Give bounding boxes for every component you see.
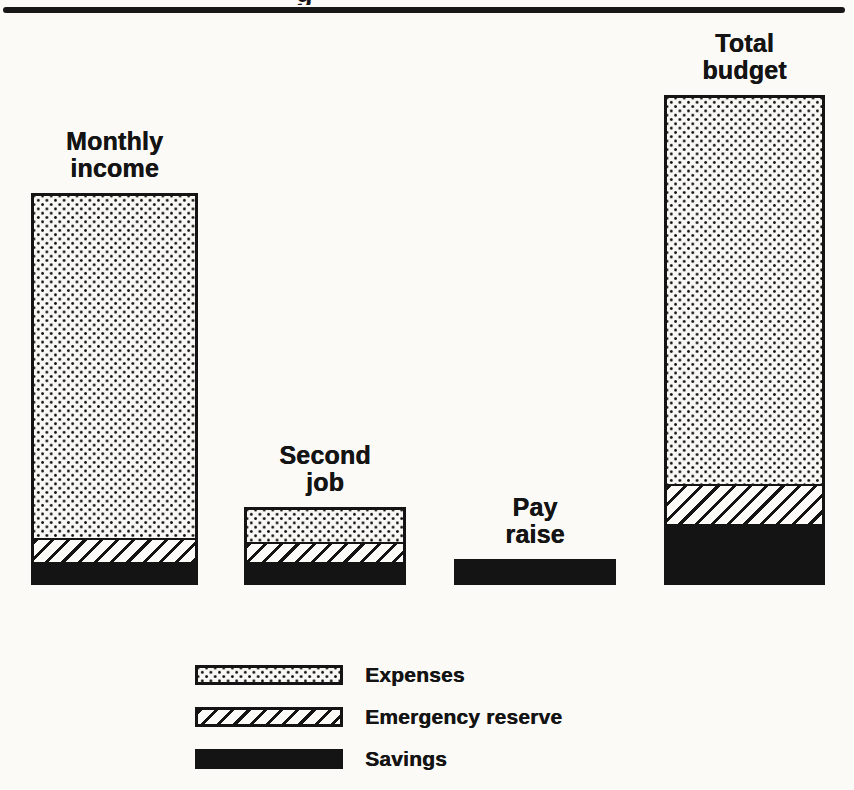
- bar-segment-total-budget-emergency-reserve: [667, 486, 822, 524]
- bar-label-pay-raise: Payraise: [505, 494, 564, 548]
- bar-segment-monthly-income-emergency-reserve: [34, 540, 195, 562]
- bar-label-total-budget: Totalbudget: [702, 30, 787, 84]
- bar-label-line: budget: [702, 57, 787, 84]
- legend-swatch-expenses-dots: [195, 665, 343, 685]
- bar-stack-total-budget: [664, 95, 825, 585]
- scanned-chart-page: g MonthlyincomeSecondjobPayraiseTotalbud…: [0, 0, 854, 790]
- bar-label-line: job: [279, 469, 371, 496]
- legend-item-savings: Savings: [195, 747, 562, 771]
- legend: Expenses Emergency reserve Savings: [195, 663, 562, 771]
- legend-item-expenses: Expenses: [195, 663, 562, 687]
- bar-segment-monthly-income-savings: [34, 562, 195, 582]
- bar-stack-monthly-income: [31, 193, 198, 585]
- bar-label-line: Total: [702, 30, 787, 57]
- bar-group-pay-raise: Payraise: [457, 494, 613, 585]
- legend-label-savings: Savings: [365, 747, 447, 771]
- bar-stack-second-job: [244, 507, 406, 585]
- bar-label-line: Pay: [505, 494, 564, 521]
- legend-swatch-savings-solid: [195, 749, 343, 769]
- bar-label-line: raise: [505, 521, 564, 548]
- bar-segment-pay-raise-savings: [457, 562, 613, 582]
- bar-label-second-job: Secondjob: [279, 442, 371, 496]
- bar-segment-total-budget-expenses: [667, 98, 822, 486]
- bar-segment-second-job-savings: [247, 562, 403, 582]
- bar-segment-second-job-expenses: [247, 510, 403, 544]
- bar-segment-total-budget-savings: [667, 524, 822, 582]
- bar-label-line: Second: [279, 442, 371, 469]
- bar-label-monthly-income: Monthlyincome: [66, 128, 163, 182]
- bar-segment-monthly-income-expenses: [34, 196, 195, 540]
- bar-group-monthly-income: Monthlyincome: [34, 128, 195, 585]
- bar-group-second-job: Secondjob: [247, 442, 403, 585]
- bar-segment-second-job-emergency-reserve: [247, 544, 403, 562]
- bar-stack-pay-raise: [454, 559, 616, 585]
- legend-item-emergency-reserve: Emergency reserve: [195, 705, 562, 729]
- bar-group-total-budget: Totalbudget: [667, 30, 822, 585]
- bar-label-line: Monthly: [66, 128, 163, 155]
- legend-label-expenses: Expenses: [365, 663, 465, 687]
- bar-label-line: income: [66, 155, 163, 182]
- legend-swatch-emergency-reserve-hatch: [195, 707, 343, 727]
- legend-label-emergency-reserve: Emergency reserve: [365, 705, 562, 729]
